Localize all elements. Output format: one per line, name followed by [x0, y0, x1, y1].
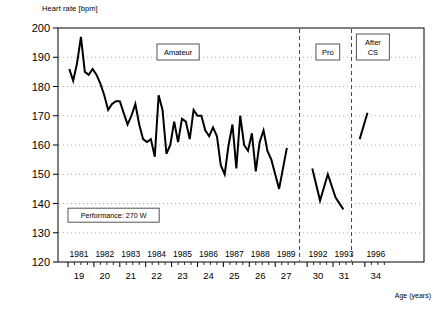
x-axis-year-label: 1987	[225, 249, 244, 259]
phase-label-after-cs: AfterCS	[356, 34, 389, 60]
y-axis-tick-label: 130	[32, 227, 50, 239]
x-axis-age-label: 24	[203, 270, 214, 281]
phase-label-amateur-label: Amateur	[164, 48, 193, 57]
x-axis-year-label: 1993	[334, 249, 353, 259]
x-axis-year-label: 1983	[121, 249, 140, 259]
phase-label-pro-label: Pro	[322, 48, 334, 57]
x-axis-year-label: 1985	[173, 249, 192, 259]
phase-label-after-cs-label: After	[365, 38, 381, 47]
x-axis-year-label: 1996	[366, 249, 385, 259]
x-axis-age-label: 22	[151, 270, 162, 281]
x-axis-age-label: 30	[313, 270, 324, 281]
heart-rate-line-chart: 1201301401501601701801902001981198219831…	[0, 0, 437, 320]
y-axis-tick-label: 120	[32, 256, 50, 268]
x-axis-age-label: 27	[281, 270, 292, 281]
x-axis-year-label: 1984	[147, 249, 166, 259]
x-axis-age-label: 26	[255, 270, 266, 281]
phase-label-pro: Pro	[316, 44, 340, 60]
phase-label-after-cs-label: CS	[368, 48, 378, 57]
phase-label-amateur: Amateur	[157, 44, 199, 60]
x-axis-age-label: 20	[100, 270, 111, 281]
x-axis-year-label: 1988	[251, 249, 270, 259]
performance-note-label: Performance: 270 W	[81, 211, 147, 220]
x-axis-age-label: 25	[229, 270, 240, 281]
x-axis-age-label: 21	[125, 270, 136, 281]
x-axis-year-label: 1986	[199, 249, 218, 259]
x-axis-year-label: 1982	[95, 249, 114, 259]
y-axis-tick-label: 190	[32, 51, 50, 63]
x-axis-age-label: 19	[74, 270, 85, 281]
y-axis-tick-label: 150	[32, 168, 50, 180]
performance-note: Performance: 270 W	[68, 208, 159, 222]
y-axis-tick-label: 200	[32, 22, 50, 34]
x-axis-year-label: 1981	[69, 249, 88, 259]
plot-frame	[58, 28, 424, 262]
y-axis-tick-label: 140	[32, 198, 50, 210]
x-axis-age-label: 31	[339, 270, 350, 281]
x-axis-year-label: 1992	[309, 249, 328, 259]
chart-figure: Heart rate [bpm] Age (years) 12013014015…	[0, 0, 437, 320]
y-axis-tick-label: 180	[32, 81, 50, 93]
y-axis-tick-label: 160	[32, 139, 50, 151]
x-axis-age-label: 23	[177, 270, 188, 281]
y-axis-tick-label: 170	[32, 110, 50, 122]
x-axis-year-label: 1989	[277, 249, 296, 259]
x-axis-age-label: 34	[371, 270, 382, 281]
